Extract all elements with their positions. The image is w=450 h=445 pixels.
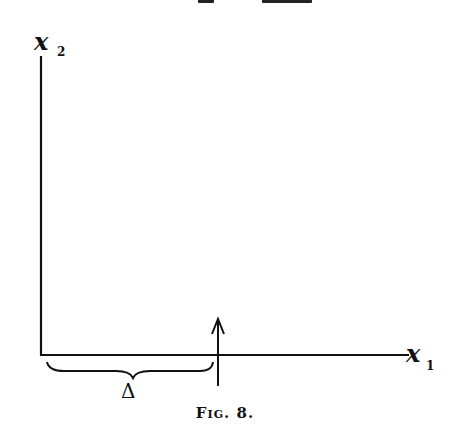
svg-text:x: x bbox=[405, 339, 421, 368]
x1-axis-label: x 1 bbox=[405, 339, 434, 373]
arrow-up-icon bbox=[212, 319, 224, 386]
brace bbox=[47, 362, 213, 378]
delta-label: Δ bbox=[121, 379, 135, 403]
svg-text:2: 2 bbox=[57, 45, 65, 59]
svg-text:x: x bbox=[33, 27, 49, 56]
figure-caption: Fig. 8. bbox=[0, 404, 450, 422]
diagram: x 2 x 1 Δ bbox=[0, 0, 450, 445]
x2-axis-label: x 2 bbox=[33, 27, 65, 59]
svg-text:1: 1 bbox=[426, 359, 434, 373]
